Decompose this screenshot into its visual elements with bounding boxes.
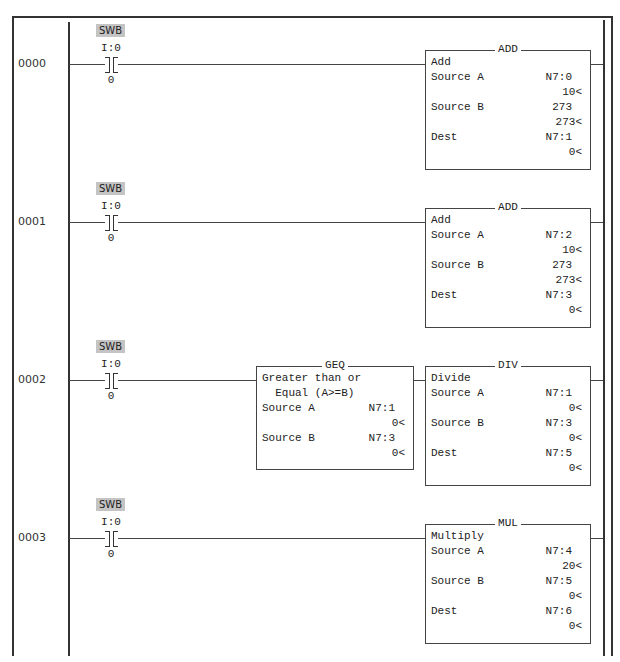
examine-if-closed-contact[interactable] [96, 373, 126, 389]
parameter-address: 273 [552, 100, 572, 115]
parameter-value: 10< [562, 243, 582, 258]
contact-tag-label: SWB [96, 498, 125, 511]
rung-wire [118, 380, 256, 381]
parameter-row: Source B273 [426, 258, 590, 273]
rung-wire [118, 538, 425, 539]
instruction-block-geq[interactable]: GEQGreater than or Equal (A>=B)Source AN… [256, 366, 414, 470]
parameter-value: 0< [392, 416, 405, 431]
rung-wire [69, 222, 105, 223]
parameter-row: Source AN7:0 [426, 70, 590, 85]
parameter-value: 273< [556, 273, 582, 288]
parameter-address: N7:3 [546, 416, 572, 431]
contact-left-bracket [105, 215, 110, 231]
parameter-address: N7:2 [546, 228, 572, 243]
parameter-value-row: 273< [426, 115, 590, 130]
parameter-row: Source BN7:5 [426, 574, 590, 589]
rung-wire [69, 538, 105, 539]
instruction-description: Add [426, 213, 590, 228]
contact-address: I:0 [96, 42, 126, 54]
parameter-label: Dest [431, 605, 457, 617]
instruction-mnemonic-text: GEQ [322, 359, 348, 371]
rung-wire [591, 380, 603, 381]
examine-if-closed-contact[interactable] [96, 215, 126, 231]
parameter-row: Source AN7:2 [426, 228, 590, 243]
rung-wire [69, 64, 105, 65]
parameter-address: N7:1 [369, 401, 395, 416]
contact-left-bracket [105, 57, 110, 73]
instruction-block-div[interactable]: DIVDivideSource AN7:10<Source BN7:30<Des… [425, 366, 591, 486]
parameter-address: N7:1 [546, 386, 572, 401]
parameter-address: N7:3 [546, 288, 572, 303]
examine-if-closed-contact[interactable] [96, 57, 126, 73]
contact-bit: 0 [96, 74, 126, 86]
diagram-border-top [12, 16, 611, 18]
contact-bit: 0 [96, 390, 126, 402]
rung-number: 0003 [18, 531, 46, 544]
parameter-label: Source B [431, 259, 484, 271]
parameter-row: Source AN7:1 [257, 401, 413, 416]
instruction-block-add[interactable]: ADDAddSource AN7:210<Source B273273<Dest… [425, 208, 591, 328]
parameter-row: Source BN7:3 [426, 416, 590, 431]
rung-wire [118, 222, 425, 223]
parameter-row: Source AN7:4 [426, 544, 590, 559]
parameter-label: Source A [262, 402, 315, 414]
contact-tag-label: SWB [96, 182, 125, 195]
parameter-address: 273 [552, 258, 572, 273]
parameter-address: N7:1 [546, 130, 572, 145]
examine-if-closed-contact[interactable] [96, 531, 126, 547]
contact-address: I:0 [96, 358, 126, 370]
rung-number: 0002 [18, 373, 46, 386]
parameter-row: Source BN7:3 [257, 431, 413, 446]
instruction-block-mul[interactable]: MULMultiplySource AN7:420<Source BN7:50<… [425, 524, 591, 644]
diagram-border-right [611, 16, 613, 656]
parameter-value: 0< [569, 145, 582, 160]
parameter-value: 0< [569, 619, 582, 634]
instruction-block-add[interactable]: ADDAddSource AN7:010<Source B273273<Dest… [425, 50, 591, 170]
contact-tag-label: SWB [96, 24, 125, 37]
contact-right-bracket [113, 531, 118, 547]
parameter-value: 0< [569, 461, 582, 476]
contact-right-bracket [113, 373, 118, 389]
parameter-value-row: 0< [426, 589, 590, 604]
parameter-row: DestN7:3 [426, 288, 590, 303]
parameter-value-row: 0< [426, 401, 590, 416]
contact-tag-label: SWB [96, 340, 125, 353]
rung-number: 0001 [18, 215, 46, 228]
parameter-value: 0< [569, 303, 582, 318]
parameter-label: Source B [431, 101, 484, 113]
parameter-value: 0< [569, 589, 582, 604]
parameter-label: Dest [431, 447, 457, 459]
rung-wire [591, 64, 603, 65]
diagram-border-left [12, 16, 14, 656]
parameter-label: Source B [431, 417, 484, 429]
contact-address: I:0 [96, 200, 126, 212]
contact-right-bracket [113, 215, 118, 231]
instruction-description: Add [426, 55, 590, 70]
parameter-address: N7:6 [546, 604, 572, 619]
contact-right-bracket [113, 57, 118, 73]
rung-wire [69, 380, 105, 381]
parameter-row: DestN7:5 [426, 446, 590, 461]
parameter-row: Source AN7:1 [426, 386, 590, 401]
contact-left-bracket [105, 531, 110, 547]
parameter-value: 20< [562, 559, 582, 574]
left-power-rail [68, 22, 70, 656]
parameter-address: N7:0 [546, 70, 572, 85]
parameter-label: Source A [431, 229, 484, 241]
parameter-value-row: 10< [426, 85, 590, 100]
instruction-description: Greater than or [257, 371, 413, 386]
instruction-mnemonic-text: MUL [495, 517, 521, 529]
instruction-mnemonic-text: DIV [495, 359, 521, 371]
parameter-value: 10< [562, 85, 582, 100]
right-power-rail [603, 20, 605, 656]
instruction-mnemonic-text: ADD [495, 201, 521, 213]
parameter-row: DestN7:6 [426, 604, 590, 619]
parameter-label: Source B [262, 432, 315, 444]
parameter-label: Source A [431, 71, 484, 83]
rung-number: 0000 [18, 57, 46, 70]
parameter-value-row: 0< [426, 461, 590, 476]
parameter-value: 0< [569, 401, 582, 416]
parameter-address: N7:4 [546, 544, 572, 559]
parameter-label: Dest [431, 289, 457, 301]
parameter-address: N7:3 [369, 431, 395, 446]
